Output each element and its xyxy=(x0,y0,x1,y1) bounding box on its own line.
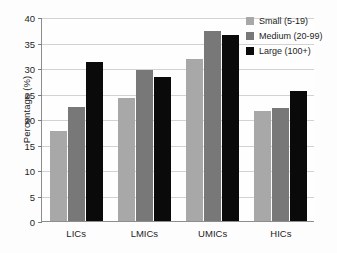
y-axis-tick xyxy=(38,146,42,147)
bar xyxy=(154,77,171,221)
y-axis-tick xyxy=(38,69,42,70)
bar xyxy=(136,70,153,221)
y-axis-tick xyxy=(38,222,42,223)
bar xyxy=(290,91,307,221)
legend-item: Large (100+) xyxy=(246,46,323,56)
y-axis-title: Percentage (%) xyxy=(21,40,32,180)
legend-swatch-icon xyxy=(246,47,254,55)
legend-label: Large (100+) xyxy=(259,46,311,56)
legend-swatch-icon xyxy=(246,17,254,25)
gridline xyxy=(42,69,314,70)
y-axis-tick xyxy=(38,197,42,198)
y-axis-tick-label: 40 xyxy=(24,13,35,24)
y-axis-tick-label: 25 xyxy=(24,89,35,100)
x-axis-tick-label: LICs xyxy=(66,228,86,239)
bar xyxy=(222,35,239,221)
y-axis-tick xyxy=(38,44,42,45)
legend-item: Small (5-19) xyxy=(246,16,323,26)
x-axis-tick-label: LMICs xyxy=(131,228,158,239)
y-axis-tick xyxy=(38,18,42,19)
y-axis-tick-label: 0 xyxy=(30,217,35,228)
y-axis-tick-label: 30 xyxy=(24,64,35,75)
bar xyxy=(68,107,85,221)
legend-swatch-icon xyxy=(246,32,254,40)
y-axis-tick xyxy=(38,171,42,172)
legend-item: Medium (20-99) xyxy=(246,31,323,41)
y-axis-tick-label: 20 xyxy=(24,115,35,126)
bar xyxy=(204,31,221,221)
bar-chart: Percentage (%) 0510152025303540 LICsLMIC… xyxy=(0,0,337,253)
legend-label: Small (5-19) xyxy=(259,16,308,26)
y-axis-tick-label: 15 xyxy=(24,140,35,151)
bar xyxy=(272,108,289,221)
y-axis-tick xyxy=(38,120,42,121)
y-axis-tick-label: 35 xyxy=(24,38,35,49)
legend-label: Medium (20-99) xyxy=(259,31,323,41)
bar xyxy=(254,111,271,221)
bar xyxy=(86,62,103,221)
y-axis-tick-label: 10 xyxy=(24,166,35,177)
y-axis-tick xyxy=(38,95,42,96)
x-axis-tick-label: UMICs xyxy=(198,228,227,239)
chart-legend: Small (5-19)Medium (20-99)Large (100+) xyxy=(246,16,323,56)
y-axis-tick-label: 5 xyxy=(30,191,35,202)
bar xyxy=(50,131,67,221)
bar xyxy=(186,59,203,221)
gridline xyxy=(42,95,314,96)
x-axis-tick-label: HICs xyxy=(270,228,291,239)
bar xyxy=(118,98,135,221)
